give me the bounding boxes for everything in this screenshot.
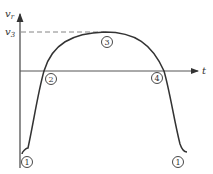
svg-text:3: 3 xyxy=(104,38,109,47)
velocity-diagram: vr v3 t 1 2 3 4 1 xyxy=(0,0,213,174)
svg-text:1: 1 xyxy=(24,158,29,167)
svg-text:2: 2 xyxy=(48,75,53,84)
marker-4: 4 xyxy=(152,73,163,84)
svg-text:1: 1 xyxy=(175,158,180,167)
marker-1-left: 1 xyxy=(22,157,33,168)
marker-3: 3 xyxy=(102,37,113,48)
y-axis-label: vr xyxy=(5,8,15,21)
velocity-curve xyxy=(22,32,187,154)
marker-2: 2 xyxy=(46,74,57,85)
marker-1-right: 1 xyxy=(173,157,184,168)
x-axis-label: t xyxy=(202,65,207,76)
svg-text:4: 4 xyxy=(154,74,159,83)
v3-label: v3 xyxy=(5,26,16,39)
